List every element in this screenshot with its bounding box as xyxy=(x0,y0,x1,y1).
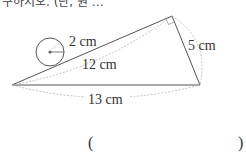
base-label: 13 cm xyxy=(88,92,123,107)
triangle xyxy=(12,16,200,85)
right-side-label: 5 cm xyxy=(188,38,216,53)
inner-length-label: 12 cm xyxy=(82,57,117,72)
answer-open-paren: ( xyxy=(88,134,93,152)
answer-close-paren: ) xyxy=(238,134,243,152)
triangle-diagram: 2 cm 12 cm 5 cm 13 cm xyxy=(0,0,246,160)
radius-label: 2 cm xyxy=(69,34,97,49)
